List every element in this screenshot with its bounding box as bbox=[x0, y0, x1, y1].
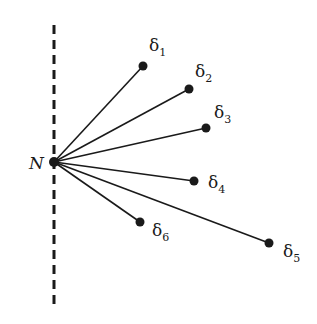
edge-N-delta6 bbox=[54, 162, 140, 222]
label-delta2: δ2 bbox=[195, 61, 212, 85]
node-delta4 bbox=[190, 177, 199, 186]
edges bbox=[54, 66, 269, 243]
edge-N-delta4 bbox=[54, 162, 194, 181]
diagram-canvas: N δ1δ2δ3δ4δ5δ6 bbox=[0, 0, 317, 324]
nodes: δ1δ2δ3δ4δ5δ6 bbox=[136, 35, 301, 265]
label-delta5: δ5 bbox=[283, 241, 300, 265]
label-delta6: δ6 bbox=[152, 220, 169, 244]
node-delta1 bbox=[139, 62, 148, 71]
node-delta3 bbox=[202, 124, 211, 133]
node-delta5 bbox=[265, 239, 274, 248]
label-delta1: δ1 bbox=[149, 35, 166, 59]
label-delta4: δ4 bbox=[208, 172, 225, 196]
edge-N-delta3 bbox=[54, 128, 206, 162]
edge-N-delta2 bbox=[54, 89, 189, 162]
label-delta3: δ3 bbox=[214, 102, 231, 126]
node-delta2 bbox=[185, 85, 194, 94]
edge-N-delta1 bbox=[54, 66, 143, 162]
hub-node-N bbox=[49, 157, 59, 167]
hub-label: N bbox=[28, 153, 45, 173]
node-delta6 bbox=[136, 218, 145, 227]
